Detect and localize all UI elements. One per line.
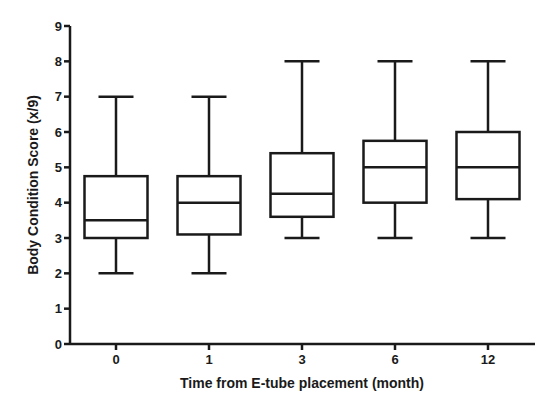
y-axis: 0123456789: [55, 19, 70, 352]
iqr-box: [271, 153, 334, 217]
box-3: [271, 61, 334, 238]
box-6: [364, 61, 427, 238]
box-plot-series: [85, 61, 520, 273]
y-tick-label: 9: [55, 19, 62, 34]
y-tick-label: 1: [55, 301, 62, 316]
x-axis-title: Time from E-tube placement (month): [180, 375, 424, 391]
y-tick-label: 4: [55, 195, 63, 210]
y-tick-label: 0: [55, 337, 62, 352]
iqr-box: [85, 176, 148, 238]
y-tick-label: 7: [55, 89, 62, 104]
x-tick-label: 1: [205, 352, 212, 367]
iqr-box: [178, 176, 241, 234]
iqr-box: [364, 141, 427, 203]
x-tick-label: 12: [481, 352, 495, 367]
x-tick-label: 0: [112, 352, 119, 367]
iqr-box: [457, 132, 520, 199]
y-axis-title: Body Condition Score (x/9): [25, 95, 41, 275]
x-axis: 013612: [70, 344, 535, 367]
y-tick-label: 8: [55, 54, 62, 69]
y-tick-label: 6: [55, 125, 62, 140]
box-0: [85, 97, 148, 274]
y-tick-label: 5: [55, 160, 62, 175]
x-tick-label: 6: [391, 352, 398, 367]
y-tick-label: 2: [55, 266, 62, 281]
box-1: [178, 97, 241, 274]
x-tick-label: 3: [298, 352, 305, 367]
y-tick-label: 3: [55, 231, 62, 246]
box-plot-chart: 0123456789 013612 Body Condition Score (…: [0, 0, 553, 408]
box-12: [457, 61, 520, 238]
